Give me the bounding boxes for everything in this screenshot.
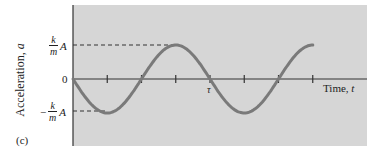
- y-tick-label-negative-amplitude: − k m A: [40, 100, 66, 123]
- fraction-denominator: m: [49, 112, 56, 123]
- fraction-k-over-m: k m: [48, 100, 57, 123]
- fraction-numerator: k: [51, 34, 55, 45]
- x-axis-label-text: Time,: [323, 82, 351, 94]
- amplitude-symbol: A: [59, 106, 66, 118]
- panel-label: (c): [16, 135, 28, 146]
- fraction-k-over-m: k m: [49, 34, 58, 57]
- y-tick-label-positive-amplitude: k m A: [49, 34, 67, 57]
- chart-plot: [0, 0, 386, 160]
- y-axis-label: Acceleration, a: [13, 43, 28, 116]
- y-axis-label-text: Acceleration,: [13, 49, 27, 116]
- y-tick-label-zero: 0: [62, 74, 68, 85]
- x-tick-label-tau: τ: [207, 85, 211, 95]
- minus-sign: −: [40, 106, 46, 118]
- y-axis-label-variable: a: [13, 43, 27, 49]
- fraction-denominator: m: [50, 46, 57, 57]
- x-axis-label: Time, t: [323, 83, 354, 94]
- plot-background: [73, 5, 367, 146]
- fraction-numerator: k: [50, 100, 54, 111]
- x-axis-label-variable: t: [351, 82, 354, 94]
- amplitude-symbol: A: [60, 40, 67, 52]
